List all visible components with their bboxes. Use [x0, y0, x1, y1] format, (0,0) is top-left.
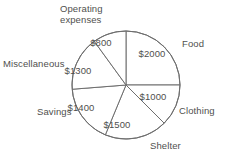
pie-category-label-operating-expenses: Operating expenses	[60, 3, 103, 25]
pie-category-label-shelter: Shelter	[150, 140, 181, 151]
pie-slice-value-shelter: $1500	[104, 119, 131, 130]
pie-category-label-food: Food	[182, 38, 204, 49]
pie-chart: $2000$1000$1500$1400$1300$800 FoodClothi…	[0, 0, 225, 156]
pie-slice-value-miscellaneous: $1300	[65, 65, 92, 76]
pie-slice-value-food: $2000	[139, 48, 166, 59]
pie-category-label-savings: Savings	[37, 106, 72, 117]
pie-category-label-clothing: Clothing	[179, 105, 215, 116]
pie-slice-value-clothing: $1000	[140, 91, 167, 102]
pie-category-label-miscellaneous: Miscellaneous	[3, 58, 65, 69]
pie-chart-svg: $2000$1000$1500$1400$1300$800	[0, 0, 225, 156]
pie-slice-value-operating-expenses: $800	[90, 37, 112, 48]
